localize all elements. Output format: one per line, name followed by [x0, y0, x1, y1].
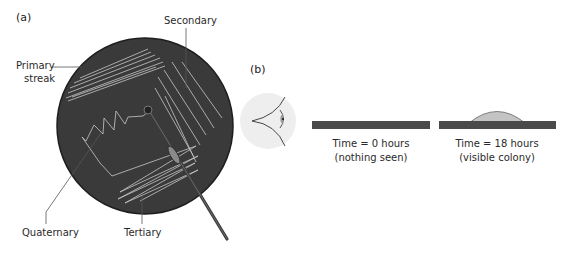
agar-surface-18h: [439, 112, 556, 130]
caption-18h-note: (visible colony): [427, 151, 567, 165]
quaternary-label: Quaternary: [22, 227, 79, 239]
secondary-label: Secondary: [164, 15, 217, 27]
panel-a-label: (a): [16, 12, 31, 24]
caption-0h-time: Time = 0 hours: [301, 137, 441, 151]
petri-plate: [57, 38, 233, 214]
primary-streak-label-line1: Primary: [16, 60, 55, 72]
caption-18h-time: Time = 18 hours: [427, 137, 567, 151]
caption-0h: Time = 0 hours (nothing seen): [301, 137, 441, 165]
primary-streak-label-line2: streak: [24, 73, 55, 85]
agar-surface-0h: [312, 121, 430, 129]
tertiary-label: Tertiary: [124, 227, 162, 239]
caption-0h-note: (nothing seen): [301, 151, 441, 165]
eye-icon: [240, 93, 296, 149]
figure-canvas: [0, 0, 572, 257]
panel-b-label: (b): [250, 64, 266, 76]
caption-18h: Time = 18 hours (visible colony): [427, 137, 567, 165]
